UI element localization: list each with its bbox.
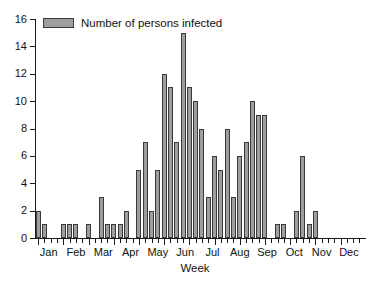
x-axis-tick [221, 239, 222, 243]
bar [212, 156, 217, 238]
bar [162, 74, 167, 238]
bar [174, 142, 179, 238]
x-axis-tick [145, 239, 146, 243]
bar [218, 170, 223, 238]
y-axis-label: 8 [0, 123, 27, 134]
bar [231, 197, 236, 238]
x-axis-tick [341, 239, 342, 245]
bar [193, 101, 198, 238]
x-axis-tick [240, 239, 241, 245]
x-axis-line [35, 238, 366, 239]
bar [206, 197, 211, 238]
bar [111, 224, 116, 238]
x-axis-tick [290, 239, 291, 245]
y-axis-label: 16 [0, 14, 27, 25]
x-axis-tick [315, 239, 316, 245]
bar [181, 33, 186, 238]
bar [244, 142, 249, 238]
x-axis-tick [126, 239, 127, 243]
bar [237, 156, 242, 238]
x-axis-tick [139, 239, 140, 245]
x-axis-tick [303, 239, 304, 243]
bar [149, 211, 154, 238]
bar [36, 211, 41, 238]
bar [136, 170, 141, 238]
y-axis-label: 2 [0, 205, 27, 216]
bar [42, 224, 47, 238]
x-axis-tick [170, 239, 171, 243]
bar [307, 224, 312, 238]
y-axis-label: 0 [0, 233, 27, 244]
x-axis-tick [322, 239, 323, 243]
bar [124, 211, 129, 238]
x-axis-tick [359, 239, 360, 243]
bar [73, 224, 78, 238]
x-axis-tick [284, 239, 285, 243]
x-axis-tick [107, 239, 108, 243]
x-axis-tick [183, 239, 184, 243]
bar [262, 115, 267, 238]
x-axis-tick [196, 239, 197, 243]
bar [86, 224, 91, 238]
x-axis-tick [89, 239, 90, 245]
x-axis-tick [133, 239, 134, 243]
x-axis-tick [334, 239, 335, 243]
y-axis-label: 14 [0, 41, 27, 52]
x-axis-tick [252, 239, 253, 243]
bar [168, 87, 173, 238]
bar [250, 101, 255, 238]
x-axis-tick [189, 239, 190, 245]
bar [105, 224, 110, 238]
bar [256, 115, 261, 238]
x-axis-tick [44, 239, 45, 243]
x-axis-tick [177, 239, 178, 243]
x-axis-tick [353, 239, 354, 243]
bar [199, 129, 204, 239]
y-axis-label: 4 [0, 178, 27, 189]
bar [313, 211, 318, 238]
epidemic-curve-chart: Number of persons infected 0246810121416… [0, 0, 390, 290]
bar [281, 224, 286, 238]
bar-series-infected [35, 19, 366, 238]
bar [300, 156, 305, 238]
x-axis-tick [164, 239, 165, 245]
y-axis-tick [30, 238, 35, 239]
x-axis-tick [120, 239, 121, 243]
x-axis-tick [38, 239, 39, 245]
x-axis-tick [82, 239, 83, 243]
x-axis-tick [259, 239, 260, 243]
x-axis-tick [57, 239, 58, 243]
y-axis-label: 6 [0, 150, 27, 161]
x-axis-tick [309, 239, 310, 243]
x-axis-title: Week [0, 262, 390, 274]
x-axis-tick [202, 239, 203, 243]
x-axis-tick [76, 239, 77, 243]
x-axis-tick [227, 239, 228, 243]
x-axis-tick [95, 239, 96, 243]
bar [99, 197, 104, 238]
x-axis-tick [215, 239, 216, 245]
bar [225, 129, 230, 239]
x-axis-tick [328, 239, 329, 243]
x-axis-month-label: Dec [329, 247, 369, 258]
x-axis-tick [63, 239, 64, 245]
x-axis-tick [158, 239, 159, 243]
x-axis-tick [70, 239, 71, 243]
y-axis-label: 12 [0, 68, 27, 79]
y-axis-label: 10 [0, 96, 27, 107]
x-axis-tick [51, 239, 52, 243]
x-axis-tick [278, 239, 279, 243]
x-axis-tick [233, 239, 234, 243]
bar [143, 142, 148, 238]
bar [61, 224, 66, 238]
x-axis-tick [347, 239, 348, 243]
bar [187, 87, 192, 238]
bar [275, 224, 280, 238]
x-axis-tick [296, 239, 297, 243]
x-axis-tick [152, 239, 153, 243]
x-axis-tick [114, 239, 115, 245]
x-axis-tick [271, 239, 272, 243]
x-axis-tick [246, 239, 247, 243]
bar [294, 211, 299, 238]
bar [155, 170, 160, 238]
